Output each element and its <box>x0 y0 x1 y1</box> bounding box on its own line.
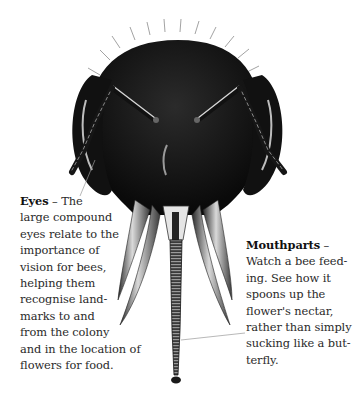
mouthparts-caption-line: flower's nectar, <box>246 303 355 319</box>
eyes-caption-line: helping them <box>20 275 132 291</box>
bee-head-diagram: Eyes – The large compound eyes relate to… <box>0 0 355 400</box>
eyes-caption-line: and in the location of <box>20 341 132 357</box>
eyes-caption-line: importance of <box>20 242 132 258</box>
mouthparts-caption: Mouthparts – Watch a bee feed- ing. See … <box>246 237 355 368</box>
eyes-caption-line: large compound <box>20 209 132 225</box>
mouthparts-leader-line <box>181 333 245 340</box>
mouthparts-caption-title: Mouthparts <box>246 238 320 252</box>
eyes-caption-line: eyes relate to the <box>20 226 132 242</box>
mouthparts-caption-line: Watch a bee feed- <box>246 253 355 269</box>
eyes-caption-line: recognise land- <box>20 291 132 307</box>
proboscis-tongue <box>170 240 182 375</box>
mouthparts-caption-line: terfly. <box>246 352 355 368</box>
eyes-caption-first-line: Eyes – The <box>20 193 132 209</box>
eyes-caption-title: Eyes <box>20 194 49 208</box>
eyes-caption-line: flowers for food. <box>20 357 132 373</box>
eyes-caption-line: from the colony <box>20 324 132 340</box>
eyes-caption-line: vision for bees, <box>20 259 132 275</box>
eyes-caption: Eyes – The large compound eyes relate to… <box>20 193 132 373</box>
mouthparts-caption-line: sucking like a but- <box>246 335 355 351</box>
mouthparts-caption-first-line: Mouthparts – <box>246 237 355 253</box>
tongue-tip <box>171 377 181 384</box>
mouthparts-caption-line: spoons up the <box>246 286 355 302</box>
mouthparts-caption-line: ing. See how it <box>246 270 355 286</box>
eyes-caption-line: marks to and <box>20 308 132 324</box>
head-capsule <box>88 40 263 215</box>
mouthparts-caption-line: rather than simply <box>246 319 355 335</box>
